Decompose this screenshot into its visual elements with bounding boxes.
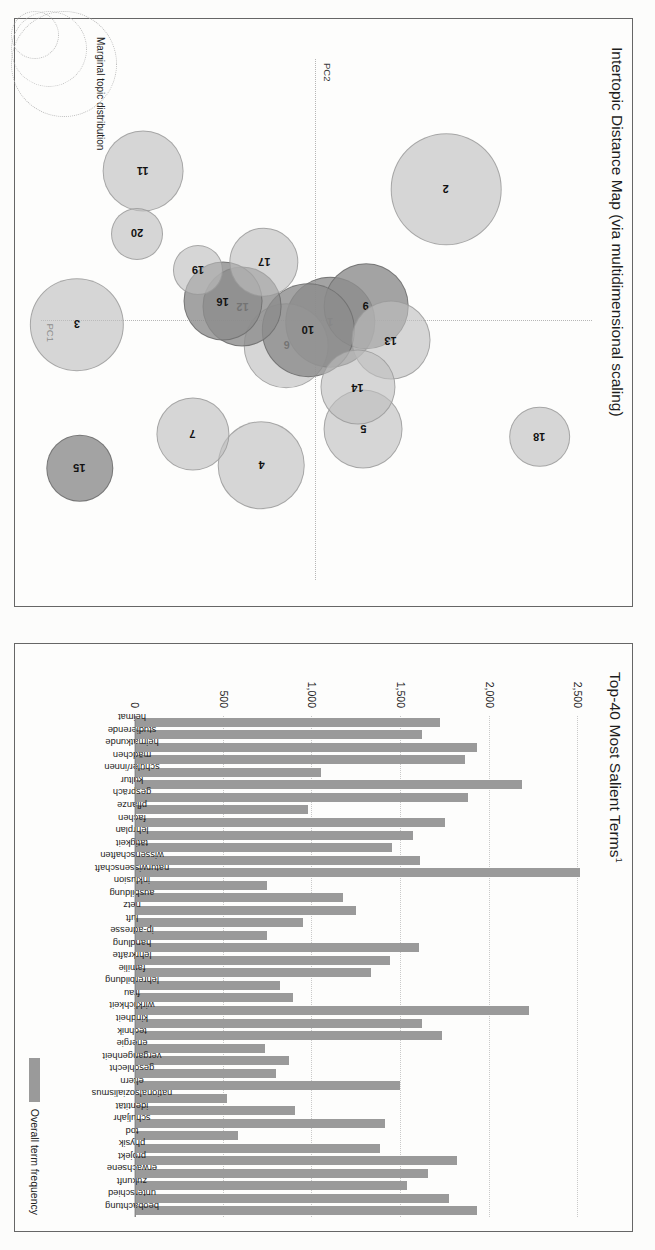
bar-item[interactable]: tätigkeit	[135, 841, 596, 854]
bar[interactable]	[135, 956, 390, 965]
topic-bubble[interactable]: 11	[102, 130, 183, 211]
bar-item[interactable]: kindheit	[135, 1017, 596, 1030]
bar-item[interactable]: studierende	[135, 729, 596, 742]
bar[interactable]	[135, 1019, 422, 1028]
bar[interactable]	[135, 1106, 295, 1115]
bar-item[interactable]: technik	[135, 1029, 596, 1042]
bar-item[interactable]: vergangenheit	[135, 1054, 596, 1067]
bar-item[interactable]: unterschied	[135, 1192, 596, 1205]
bar[interactable]	[135, 730, 422, 739]
bar-item[interactable]: frau	[135, 992, 596, 1005]
topic-bubble-label: 5	[360, 423, 366, 435]
bar-item[interactable]: luft	[135, 917, 596, 930]
bar[interactable]	[135, 818, 445, 827]
bar-item[interactable]: physik	[135, 1142, 596, 1155]
bar-item[interactable]: familie	[135, 967, 596, 980]
bar[interactable]	[135, 1156, 457, 1165]
bar-item[interactable]: gespräch	[135, 791, 596, 804]
topic-bubble-label: 17	[258, 256, 270, 268]
bar-item[interactable]: geschlecht	[135, 1067, 596, 1080]
topic-bubble[interactable]: 2	[390, 134, 501, 245]
bar-item[interactable]: inklusion	[135, 879, 596, 892]
bar-item[interactable]: eltern	[135, 1079, 596, 1092]
bar[interactable]	[135, 906, 356, 915]
bar-item[interactable]: wirklichkeit	[135, 1004, 596, 1017]
bar-item[interactable]: schuljahr	[135, 1117, 596, 1130]
topic-bubble[interactable]: 17	[230, 228, 299, 297]
bar[interactable]	[135, 931, 267, 940]
bar-item[interactable]: pflanze	[135, 804, 596, 817]
topic-bubble[interactable]: 19	[173, 245, 223, 295]
bar[interactable]	[135, 1081, 400, 1090]
bar[interactable]	[135, 1131, 238, 1140]
intertopic-plot-area[interactable]: PC1 PC2 123456791011121314151617181920	[41, 59, 592, 580]
topic-bubble[interactable]: 18	[509, 407, 569, 467]
bar-item[interactable]: lehrerbildung	[135, 979, 596, 992]
bar[interactable]	[135, 1206, 477, 1215]
bar-category-label: gespräch	[113, 787, 151, 797]
bar[interactable]	[135, 1194, 449, 1203]
bar-item[interactable]: identität	[135, 1104, 596, 1117]
topic-bubble[interactable]: 3	[30, 278, 124, 372]
bar-item[interactable]: mädchen	[135, 754, 596, 767]
bar-item[interactable]: nationalsozialismus	[135, 1092, 596, 1105]
bar[interactable]	[135, 943, 419, 952]
bar[interactable]	[135, 718, 440, 727]
bar[interactable]	[135, 1031, 442, 1040]
bar[interactable]	[135, 856, 420, 865]
topic-bubble[interactable]: 15	[46, 435, 113, 502]
bar[interactable]	[135, 1181, 407, 1190]
bar[interactable]	[135, 881, 267, 890]
bar-item[interactable]: zukunft	[135, 1180, 596, 1193]
bar[interactable]	[135, 968, 371, 977]
bar-item[interactable]: lehrkräfte	[135, 954, 596, 967]
bar-series[interactable]: heimatstudierendeheimatkundemädchenschül…	[135, 716, 596, 1217]
bar-item[interactable]: energie	[135, 1042, 596, 1055]
topic-bubble[interactable]: 7	[156, 398, 229, 471]
bar[interactable]	[135, 1006, 529, 1015]
bar[interactable]	[135, 755, 465, 764]
bar[interactable]	[135, 1119, 385, 1128]
topic-bubble-label: 13	[385, 334, 397, 346]
bar-item[interactable]: beobachtung	[135, 1205, 596, 1218]
bar-category-label: tätigkeit	[116, 838, 148, 848]
bar-item[interactable]: projekt	[135, 1155, 596, 1168]
bar[interactable]	[135, 743, 477, 752]
bar[interactable]	[135, 893, 343, 902]
bar-item[interactable]: netz	[135, 904, 596, 917]
bar-category-label: vergangenheit	[103, 1051, 162, 1061]
bar-item[interactable]: heimatkunde	[135, 741, 596, 754]
topic-bubble[interactable]: 14	[320, 350, 395, 425]
bar-item[interactable]: naturwissenschaft	[135, 866, 596, 879]
bar[interactable]	[135, 831, 413, 840]
bar[interactable]	[135, 868, 580, 877]
bar-item[interactable]: ausbildung	[135, 891, 596, 904]
bar-item[interactable]: heimat	[135, 716, 596, 729]
bar[interactable]	[135, 768, 321, 777]
bar-chart-plot-area[interactable]: 05001,0001,5002,0002,500 heimatstudieren…	[135, 716, 596, 1217]
bar[interactable]	[135, 805, 308, 814]
bar-item[interactable]: ip-adresse	[135, 929, 596, 942]
topic-bubble[interactable]: 20	[111, 208, 163, 260]
topic-bubble-label: 18	[534, 431, 546, 443]
marginal-size-arcs	[37, 37, 89, 207]
bar-item[interactable]: fachen	[135, 816, 596, 829]
bar-item[interactable]: kultur	[135, 779, 596, 792]
bar[interactable]	[135, 780, 522, 789]
bar-item[interactable]: erwachsene	[135, 1167, 596, 1180]
bar[interactable]	[135, 993, 293, 1002]
bar-item[interactable]: handlung	[135, 942, 596, 955]
bar-item[interactable]: wissenschaften	[135, 854, 596, 867]
bar-item[interactable]: schüler/innen	[135, 766, 596, 779]
bar[interactable]	[135, 1144, 380, 1153]
bar-category-label: studierende	[108, 725, 157, 735]
bar[interactable]	[135, 1169, 428, 1178]
bar[interactable]	[135, 1069, 276, 1078]
bar[interactable]	[135, 793, 468, 802]
bar-item[interactable]: lehrplan	[135, 829, 596, 842]
topic-bubble[interactable]: 4	[218, 422, 305, 509]
legend-swatch	[30, 1058, 41, 1102]
bar-item[interactable]: tod	[135, 1130, 596, 1143]
bar[interactable]	[135, 843, 392, 852]
bar[interactable]	[135, 918, 303, 927]
